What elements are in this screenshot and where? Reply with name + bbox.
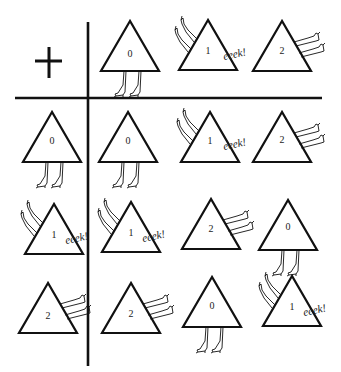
row-header-2: 2: [19, 283, 91, 333]
addition-table-diagram: 0 1 eeek! 2 0 1 eeek! 2 0 1 eeek! 2 1: [0, 0, 341, 372]
svg-text:1: 1: [290, 301, 295, 312]
svg-text:0: 0: [128, 48, 133, 59]
cell-0-0: 0: [99, 112, 157, 188]
row-header-0: 0: [23, 112, 81, 188]
svg-text:0: 0: [126, 135, 131, 146]
col-header-2: 2: [253, 21, 325, 71]
cell-0-1: 1 eeek!: [177, 108, 247, 162]
svg-text:2: 2: [209, 223, 214, 234]
svg-text:eeek!: eeek!: [222, 45, 248, 62]
cell-0-2: 2: [253, 112, 325, 162]
cell-2-2: 1 eeek!: [259, 272, 327, 326]
col-header-0: 0: [101, 21, 159, 97]
cell-2-1: 0: [183, 277, 241, 353]
svg-text:1: 1: [208, 135, 213, 146]
cell-1-0: 1 eeek!: [98, 198, 166, 252]
plus-operator-icon: [35, 47, 62, 78]
svg-text:2: 2: [280, 134, 285, 145]
svg-text:2: 2: [46, 310, 51, 321]
svg-text:0: 0: [50, 135, 55, 146]
svg-text:1: 1: [129, 227, 134, 238]
cell-2-0: 2: [102, 283, 174, 333]
svg-text:0: 0: [286, 221, 291, 232]
cell-1-1: 2: [182, 199, 254, 249]
col-header-1: 1 eeek!: [175, 16, 247, 70]
svg-text:1: 1: [52, 229, 57, 240]
svg-text:0: 0: [210, 300, 215, 311]
cell-1-2: 0: [259, 200, 317, 276]
svg-text:2: 2: [280, 45, 285, 56]
svg-text:1: 1: [206, 45, 211, 56]
svg-text:2: 2: [129, 308, 134, 319]
row-header-1: 1 eeek!: [21, 200, 89, 254]
